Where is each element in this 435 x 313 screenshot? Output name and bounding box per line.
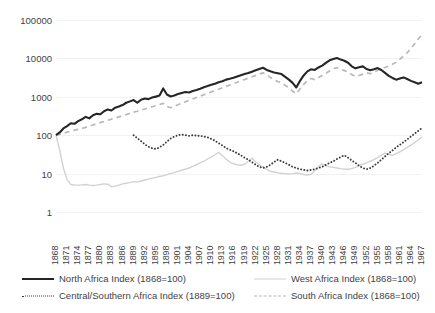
legend-line-swatch: [22, 274, 54, 284]
legend-item[interactable]: South Africa Index (1868=100): [254, 290, 422, 301]
series-line: [56, 135, 422, 186]
x-axis-tick-label: 1874: [72, 246, 82, 265]
x-axis-tick-label: 1952: [361, 246, 371, 265]
legend-label: North Africa Index (1868=100): [59, 273, 186, 284]
x-axis-tick-label: 1922: [250, 246, 260, 265]
series-line: [56, 58, 422, 135]
series-line: [134, 128, 422, 171]
x-axis-tick-label: 1913: [216, 246, 226, 265]
x-axis-tick-label: 1931: [283, 246, 293, 265]
x-axis-tick-label: 1871: [61, 246, 71, 265]
x-axis-tick-label: 1937: [305, 246, 315, 265]
x-axis-tick-label: 1877: [83, 246, 93, 265]
y-axis-tick-label: 10: [41, 168, 52, 179]
x-axis: 1868187118741877188018831886188918921895…: [56, 213, 422, 265]
legend-item[interactable]: Central/Southern Africa Index (1889=100): [22, 290, 254, 301]
x-axis-tick-label: 1880: [94, 246, 104, 265]
x-axis-tick-label: 1958: [383, 246, 393, 265]
x-axis-tick-label: 1907: [194, 246, 204, 265]
chart-legend: North Africa Index (1868=100)West Africa…: [22, 270, 422, 304]
x-axis-tick-label: 1946: [338, 246, 348, 265]
x-axis-tick-label: 1967: [416, 246, 426, 265]
legend-line-swatch: [254, 274, 286, 284]
series-lines: [56, 20, 422, 212]
y-axis-tick-label: 100000: [20, 15, 52, 26]
legend-line-swatch: [254, 291, 286, 301]
x-axis-tick-label: 1889: [128, 246, 138, 265]
legend-line-swatch: [22, 291, 54, 301]
x-axis-tick-label: 1964: [405, 246, 415, 265]
x-axis-tick-label: 1868: [50, 246, 60, 265]
x-axis-tick-label: 1940: [316, 246, 326, 265]
x-axis-tick-label: 1919: [239, 246, 249, 265]
x-axis-tick-label: 1916: [227, 246, 237, 265]
y-axis-tick-label: 1000: [31, 91, 52, 102]
x-axis-tick-label: 1901: [172, 246, 182, 265]
y-axis-tick-label: 1: [47, 207, 52, 218]
y-axis: 100000100001000100101: [0, 20, 52, 212]
x-axis-tick-label: 1883: [105, 246, 115, 265]
x-axis-tick-label: 1961: [394, 246, 404, 265]
plot-area: [56, 20, 422, 212]
chart-container: 100000100001000100101 186818711874187718…: [0, 0, 435, 313]
x-axis-tick-label: 1955: [372, 246, 382, 265]
legend-label: West Africa Index (1868=100): [291, 273, 416, 284]
x-axis-tick-label: 1904: [183, 246, 193, 265]
x-axis-tick-label: 1925: [261, 246, 271, 265]
y-axis-tick-label: 10000: [26, 53, 52, 64]
x-axis-tick-label: 1910: [205, 246, 215, 265]
legend-label: South Africa Index (1868=100): [291, 290, 420, 301]
x-axis-tick-label: 1892: [139, 246, 149, 265]
legend-label: Central/Southern Africa Index (1889=100): [59, 290, 235, 301]
x-axis-tick-label: 1934: [294, 246, 304, 265]
x-axis-tick-label: 1928: [272, 246, 282, 265]
y-axis-tick-label: 100: [36, 130, 52, 141]
x-axis-tick-label: 1886: [117, 246, 127, 265]
x-axis-tick-label: 1895: [150, 246, 160, 265]
legend-item[interactable]: West Africa Index (1868=100): [254, 273, 422, 284]
x-axis-tick-label: 1943: [327, 246, 337, 265]
x-axis-tick-label: 1898: [161, 246, 171, 265]
legend-item[interactable]: North Africa Index (1868=100): [22, 273, 254, 284]
series-line: [56, 34, 422, 135]
x-axis-tick-label: 1949: [349, 246, 359, 265]
